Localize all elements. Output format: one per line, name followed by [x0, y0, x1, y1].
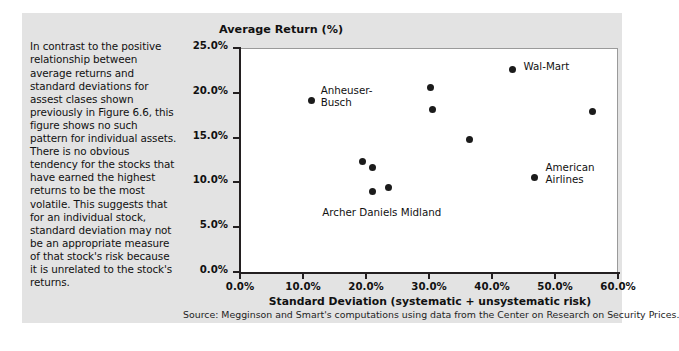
- y-tick: 15.0%: [233, 137, 240, 139]
- y-tick: 20.0%: [233, 92, 240, 94]
- point-label: Wal-Mart: [524, 60, 570, 72]
- x-tick-label: 40.0%: [474, 281, 509, 292]
- y-axis-line: [239, 47, 241, 274]
- x-tick-label: 10.0%: [285, 281, 320, 292]
- source-note: Source: Megginson and Smart's computatio…: [183, 309, 679, 320]
- data-point: [589, 108, 596, 115]
- x-tick: 40.0%: [491, 272, 493, 279]
- x-tick: 30.0%: [428, 272, 430, 279]
- y-tick-mark: [233, 181, 240, 183]
- y-tick: 10.0%: [233, 181, 240, 183]
- scatter-chart: Average Return (%) 0.0%5.0%10.0%15.0%20.…: [182, 13, 622, 323]
- point-label: Archer Daniels Midland: [322, 206, 441, 218]
- point-label: American Airlines: [546, 161, 595, 186]
- x-tick: 50.0%: [554, 272, 556, 279]
- x-tick-mark: [491, 272, 493, 279]
- x-tick-label: 0.0%: [226, 281, 254, 292]
- x-tick-mark: [554, 272, 556, 279]
- y-tick-mark: [233, 47, 240, 49]
- y-tick-mark: [233, 137, 240, 139]
- x-tick-label: 30.0%: [411, 281, 446, 292]
- y-tick: 5.0%: [233, 226, 240, 228]
- y-tick-label: 0.0%: [200, 264, 228, 275]
- data-point: [385, 184, 392, 191]
- x-tick: 20.0%: [365, 272, 367, 279]
- x-axis-title: Standard Deviation (systematic + unsyste…: [269, 295, 591, 308]
- x-tick-label: 50.0%: [537, 281, 572, 292]
- x-tick: 0.0%: [239, 272, 241, 279]
- chart-title: Average Return (%): [219, 23, 343, 36]
- figure-panel: In contrast to the positive relationship…: [22, 13, 622, 323]
- x-tick: 60.0%: [617, 272, 619, 279]
- y-tick-label: 20.0%: [193, 85, 228, 96]
- data-point: [427, 84, 434, 91]
- y-tick-mark: [233, 226, 240, 228]
- figure-caption: In contrast to the positive relationship…: [30, 40, 178, 289]
- x-tick-label: 60.0%: [600, 281, 635, 292]
- y-tick-label: 5.0%: [200, 219, 228, 230]
- y-tick-label: 10.0%: [193, 174, 228, 185]
- x-tick-mark: [428, 272, 430, 279]
- x-tick-mark: [365, 272, 367, 279]
- x-tick-mark: [302, 272, 304, 279]
- point-label: Anheuser- Busch: [321, 84, 373, 109]
- y-tick-mark: [233, 92, 240, 94]
- data-point: [531, 174, 538, 181]
- x-tick-mark: [239, 272, 241, 279]
- y-tick-label: 25.0%: [193, 40, 228, 51]
- x-tick-label: 20.0%: [348, 281, 383, 292]
- data-point: [369, 164, 376, 171]
- data-point: [369, 188, 376, 195]
- x-tick-mark: [617, 272, 619, 279]
- y-tick-label: 15.0%: [193, 130, 228, 141]
- x-tick: 10.0%: [302, 272, 304, 279]
- y-tick: 25.0%: [233, 47, 240, 49]
